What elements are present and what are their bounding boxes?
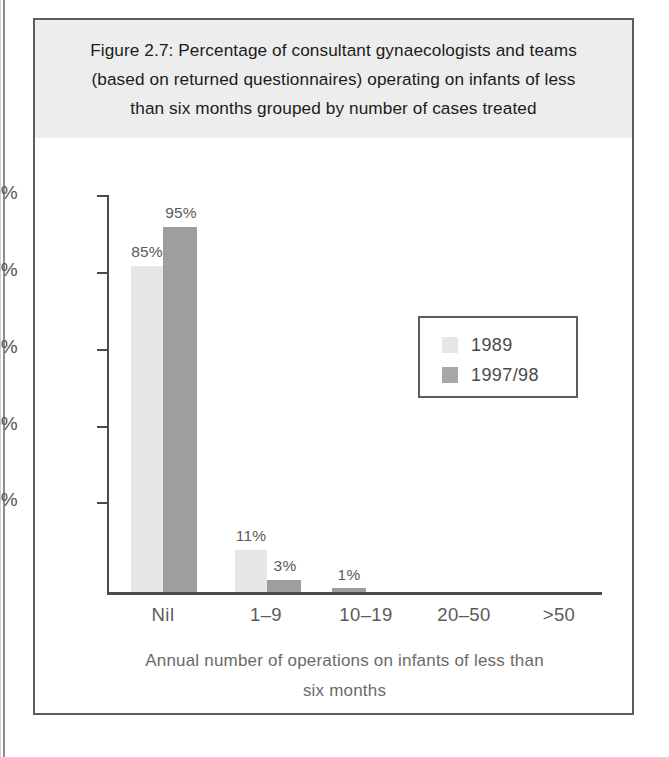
legend-item-1989: 1989 bbox=[442, 331, 576, 359]
bar-1989-nil bbox=[131, 266, 163, 592]
y-tick-label-100: 100% bbox=[0, 182, 18, 204]
x-label-10-19: 10–19 bbox=[323, 604, 409, 626]
figure-frame: Figure 2.7: Percentage of consultant gyn… bbox=[33, 18, 634, 715]
x-label-nil: Nil bbox=[129, 604, 197, 626]
bar-1997-10-19 bbox=[332, 588, 366, 592]
legend-label-1997-98: 1997/98 bbox=[471, 365, 539, 386]
legend-label-1989: 1989 bbox=[471, 335, 513, 356]
page-scan-edge-faint bbox=[0, 0, 1, 757]
page-scan-edge bbox=[3, 0, 5, 757]
x-label-gt-50: >50 bbox=[524, 604, 594, 626]
bar-label-1997-10-19: 1% bbox=[315, 566, 383, 584]
figure-title: Figure 2.7: Percentage of consultant gyn… bbox=[72, 36, 595, 123]
bar-label-1989-nil: 85% bbox=[111, 243, 183, 261]
plot-area: 100% 80% 60% 40% 20% 85% 95% 11% 3% 1% N… bbox=[35, 138, 632, 713]
y-tick-20 bbox=[97, 502, 108, 504]
x-label-20-50: 20–50 bbox=[421, 604, 507, 626]
chart-legend: 1989 1997/98 bbox=[418, 316, 578, 398]
y-tick-60 bbox=[97, 349, 108, 351]
figure-title-band: Figure 2.7: Percentage of consultant gyn… bbox=[35, 20, 632, 138]
y-tick-40 bbox=[97, 426, 108, 428]
y-tick-label-80: 80% bbox=[0, 259, 18, 281]
bar-1997-1-9 bbox=[267, 580, 301, 592]
bar-label-1997-nil: 95% bbox=[145, 204, 217, 222]
legend-swatch-1989 bbox=[442, 337, 458, 353]
bar-1997-nil bbox=[163, 227, 197, 592]
y-axis-line bbox=[107, 195, 109, 594]
y-tick-label-40: 40% bbox=[0, 413, 18, 435]
x-axis-title: Annual number of operations on infants o… bbox=[95, 646, 594, 706]
y-tick-label-60: 60% bbox=[0, 336, 18, 358]
y-tick-100 bbox=[97, 195, 108, 197]
bar-label-1989-1-9: 11% bbox=[215, 527, 287, 545]
y-tick-80 bbox=[97, 272, 108, 274]
legend-item-1997-98: 1997/98 bbox=[442, 361, 576, 389]
legend-swatch-1997-98 bbox=[442, 367, 458, 383]
x-label-1-9: 1–9 bbox=[232, 604, 300, 626]
y-tick-label-20: 20% bbox=[0, 489, 18, 511]
bar-label-1997-1-9: 3% bbox=[249, 557, 321, 575]
x-axis-line bbox=[107, 592, 602, 595]
